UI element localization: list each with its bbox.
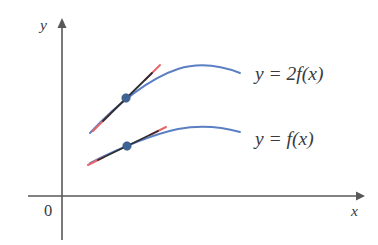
curve-label-stretched: y = 2f(x) <box>253 63 323 85</box>
curve-base-group <box>88 127 240 165</box>
curve-stretched-group <box>90 65 240 133</box>
tangent-point-base <box>123 142 131 150</box>
function-graph-svg: y x 0 y = 2f(x) y = f(x) <box>0 0 378 245</box>
x-axis-label: x <box>350 202 358 219</box>
axes-group <box>28 18 365 240</box>
curve-base-path <box>90 127 240 163</box>
tangent-point-stretched <box>122 94 130 102</box>
origin-label: 0 <box>44 201 52 220</box>
y-axis-label: y <box>38 16 47 33</box>
curve-label-base: y = f(x) <box>253 128 314 150</box>
curve-stretched-path <box>90 65 240 133</box>
y-axis-arrow-icon <box>58 18 67 28</box>
x-axis-arrow-icon <box>356 192 365 201</box>
figure-canvas: y x 0 y = 2f(x) y = f(x) <box>0 0 378 245</box>
